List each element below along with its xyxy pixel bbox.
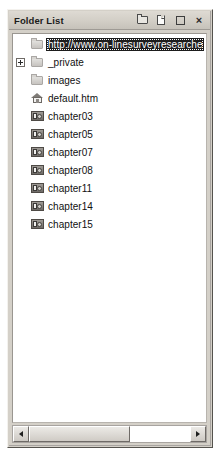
web-folder-icon bbox=[28, 165, 46, 175]
scroll-right-button[interactable] bbox=[190, 426, 206, 442]
arrow-right-icon bbox=[196, 431, 200, 437]
folder-icon bbox=[28, 58, 46, 67]
web-folder-glyph bbox=[31, 165, 44, 175]
tree-row-chapter15[interactable]: chapter15 bbox=[13, 215, 206, 233]
tree-row-default-htm[interactable]: default.htm bbox=[13, 89, 206, 107]
panel-inner: Folder List × bbox=[9, 11, 211, 446]
new-folder-icon bbox=[137, 16, 148, 24]
tree-row-label: default.htm bbox=[46, 93, 98, 104]
web-folder-icon bbox=[28, 183, 46, 193]
tree-row-label: _private bbox=[46, 57, 84, 68]
panel-titlebar: Folder List × bbox=[9, 11, 210, 30]
tree-row-label: chapter11 bbox=[46, 183, 92, 194]
close-icon: × bbox=[196, 15, 202, 26]
web-folder-glyph bbox=[31, 201, 44, 211]
folder-tree-listarea[interactable]: http://www.on-linesurveyresearche _priva… bbox=[12, 33, 207, 423]
house-glyph bbox=[31, 93, 43, 104]
close-panel-button[interactable]: × bbox=[192, 13, 206, 27]
folder-list-panel: Folder List × bbox=[7, 9, 213, 448]
tree-row-root[interactable]: http://www.on-linesurveyresearche bbox=[13, 35, 206, 53]
tree-row-chapter07[interactable]: chapter07 bbox=[13, 143, 206, 161]
new-page-button[interactable] bbox=[154, 13, 168, 27]
tree-row-chapter14[interactable]: chapter14 bbox=[13, 197, 206, 215]
folder-icon bbox=[28, 76, 46, 85]
horizontal-scrollbar[interactable] bbox=[12, 425, 207, 443]
folder-glyph bbox=[31, 76, 43, 85]
new-folder-button[interactable] bbox=[135, 13, 149, 27]
web-folder-icon bbox=[28, 219, 46, 229]
web-folder-glyph bbox=[31, 219, 44, 229]
tree-row-chapter05[interactable]: chapter05 bbox=[13, 125, 206, 143]
home-page-icon bbox=[28, 93, 46, 104]
folder-tree: http://www.on-linesurveyresearche _priva… bbox=[13, 35, 206, 233]
tree-row-label: chapter05 bbox=[46, 129, 93, 140]
tree-row-label: images bbox=[46, 75, 81, 86]
tree-row-chapter03[interactable]: chapter03 bbox=[13, 107, 206, 125]
titlebar-button-group: × bbox=[135, 13, 207, 27]
new-page-icon bbox=[157, 15, 165, 25]
web-folder-glyph bbox=[31, 129, 44, 139]
scrollbar-track[interactable] bbox=[29, 426, 190, 442]
tree-row-label: http://www.on-linesurveyresearche bbox=[46, 38, 204, 51]
web-folder-icon bbox=[28, 201, 46, 211]
web-folder-glyph bbox=[31, 183, 44, 193]
web-root-folder-icon bbox=[28, 40, 46, 49]
expand-plus-icon[interactable] bbox=[16, 58, 25, 67]
scrollbar-thumb[interactable] bbox=[29, 426, 130, 442]
tree-row-label: chapter15 bbox=[46, 219, 93, 230]
restore-window-button[interactable] bbox=[173, 13, 187, 27]
tree-row-images[interactable]: images bbox=[13, 71, 206, 89]
folder-glyph bbox=[31, 40, 43, 49]
scroll-left-button[interactable] bbox=[13, 426, 29, 442]
web-folder-glyph bbox=[31, 111, 44, 121]
tree-row-chapter08[interactable]: chapter08 bbox=[13, 161, 206, 179]
restore-window-icon bbox=[176, 16, 185, 25]
tree-row-label: chapter07 bbox=[46, 147, 93, 158]
folder-glyph bbox=[31, 58, 43, 67]
tree-row-chapter11[interactable]: chapter11 bbox=[13, 179, 206, 197]
panel-title: Folder List bbox=[14, 15, 64, 26]
web-folder-icon bbox=[28, 129, 46, 139]
tree-row-private[interactable]: _private bbox=[13, 53, 206, 71]
screenshot-root: Folder List × bbox=[0, 0, 221, 457]
web-folder-glyph bbox=[31, 147, 44, 157]
web-folder-icon bbox=[28, 111, 46, 121]
arrow-left-icon bbox=[19, 431, 23, 437]
tree-row-label: chapter08 bbox=[46, 165, 93, 176]
tree-row-label: chapter03 bbox=[46, 111, 93, 122]
tree-row-label: chapter14 bbox=[46, 201, 93, 212]
expander-slot[interactable] bbox=[13, 58, 28, 67]
web-folder-icon bbox=[28, 147, 46, 157]
house-door bbox=[36, 99, 39, 103]
